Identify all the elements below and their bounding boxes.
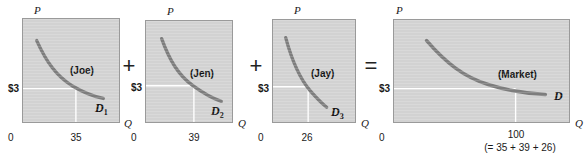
curve-id-market: D: [554, 90, 563, 105]
plot-area-jen: (Jen) D2: [145, 20, 233, 123]
origin-label-jen: 0: [131, 133, 137, 143]
operator-plus-1: +: [123, 55, 136, 77]
operator-equals: =: [365, 55, 378, 77]
x-axis-label-jay: Q: [361, 118, 369, 129]
y-axis-label-jen: P: [167, 6, 174, 17]
y-axis-label-market: P: [396, 5, 403, 16]
quantity-tick-jen: 39: [188, 133, 199, 143]
y-axis-label-jay: P: [294, 5, 301, 16]
quantity-tick-market: 100: [508, 130, 525, 140]
market-demand-figure: P (Joe) D1 $3 Q 0 35 + P (Jen) D2: [0, 0, 584, 154]
price-label-market: $3: [373, 84, 390, 94]
plot-area-jay: (Jay) D3: [272, 19, 356, 123]
x-axis-label-market: Q: [575, 118, 583, 129]
operator-plus-2: +: [250, 55, 263, 77]
curve-name-joe: (Joe): [70, 66, 94, 76]
curve-id-joe: D1: [95, 102, 108, 117]
origin-label-market: 0: [379, 133, 385, 143]
curve-name-jen: (Jen): [190, 69, 214, 79]
price-label-jay: $3: [252, 84, 269, 94]
curve-id-jen: D2: [211, 105, 224, 120]
plot-area-joe: (Joe) D1: [22, 18, 120, 123]
quantity-tick-joe: 35: [70, 133, 81, 143]
origin-label-joe: 0: [8, 133, 14, 143]
quantity-sum-note-market: (= 35 + 39 + 26): [484, 143, 555, 153]
curve-id-jay: D3: [331, 106, 344, 121]
price-label-joe: $3: [2, 84, 19, 94]
origin-label-jay: 0: [258, 133, 264, 143]
plot-area-market: (Market) D: [393, 19, 570, 123]
x-axis-label-jen: Q: [238, 118, 246, 129]
demand-curve-svg-market: [394, 20, 569, 122]
panel-joe: P (Joe) D1 $3 Q 0 35: [0, 0, 140, 154]
curve-name-jay: (Jay): [311, 69, 334, 79]
demand-curve-market: [427, 41, 546, 95]
y-axis-label-joe: P: [34, 5, 41, 16]
x-axis-label-joe: Q: [124, 118, 132, 129]
curve-name-market: (Market): [498, 70, 537, 80]
quantity-tick-jay: 26: [301, 133, 312, 143]
price-label-jen: $3: [125, 83, 142, 93]
panel-market: P (Market) D $3 Q 0 100 (= 35 + 39 + 26): [384, 0, 584, 154]
